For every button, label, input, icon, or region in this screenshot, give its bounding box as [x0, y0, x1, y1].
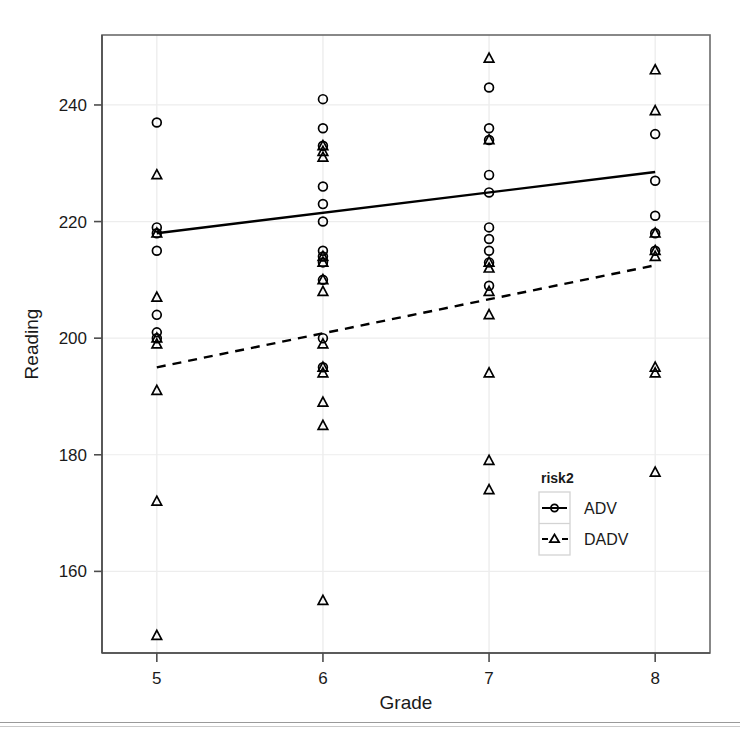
- x-axis: 5678: [102, 653, 710, 688]
- y-axis: 160180200220240: [59, 35, 102, 653]
- x-axis-tick-label: 6: [318, 669, 327, 688]
- legend-entry-dadv[interactable]: DADV: [542, 531, 629, 548]
- y-axis-tick-label: 220: [59, 213, 87, 232]
- y-axis-tick-label: 160: [59, 562, 87, 581]
- y-axis-title: Reading: [21, 309, 42, 380]
- page-divider-line: [0, 722, 740, 723]
- fit-line-dadv: [157, 265, 655, 367]
- x-axis-tick-label: 5: [152, 669, 161, 688]
- reading-by-grade-scatter-chart: 160180200220240 5678 Reading Grade risk2…: [0, 0, 740, 738]
- fit-line-adv: [157, 172, 655, 233]
- series-adv-points: [152, 83, 659, 372]
- y-axis-tick-label: 240: [59, 96, 87, 115]
- legend-label-dadv: DADV: [584, 531, 629, 548]
- legend[interactable]: risk2 ADV DADV: [539, 470, 629, 555]
- y-axis-tick-label: 200: [59, 329, 87, 348]
- x-axis-tick-label: 8: [650, 669, 659, 688]
- legend-entry-adv[interactable]: ADV: [542, 500, 617, 517]
- scatter-plot-figure: 160180200220240 5678 Reading Grade risk2…: [0, 0, 740, 738]
- x-axis-title: Grade: [380, 692, 433, 713]
- x-axis-tick-label: 7: [484, 669, 493, 688]
- series-dadv-points: [152, 53, 660, 639]
- legend-title: risk2: [541, 470, 574, 486]
- legend-label-adv: ADV: [584, 500, 617, 517]
- plot-frame: [102, 35, 710, 653]
- triangle-icon: [550, 534, 559, 542]
- y-axis-tick-label: 180: [59, 446, 87, 465]
- page-divider-line-secondary: [0, 726, 740, 727]
- grid-lines: [102, 35, 710, 653]
